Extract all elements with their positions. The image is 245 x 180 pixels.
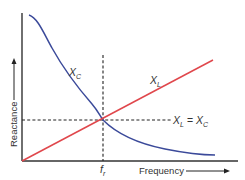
xl-inductive-reactance-line	[22, 60, 213, 161]
reactance-frequency-diagram: XC XL XL=XC fr Reactance Frequency	[0, 0, 245, 180]
equality-label: XL=XC	[172, 114, 209, 128]
x-axis-label: Frequency	[139, 165, 184, 176]
up-arrow-icon	[12, 58, 17, 64]
y-axis-label: Reactance	[8, 102, 19, 147]
xc-label: XC	[68, 66, 82, 80]
xl-label: XL	[149, 74, 161, 88]
right-arrow-icon	[224, 169, 230, 174]
resonant-frequency-label: fr	[100, 163, 106, 177]
xc-capacitive-reactance-curve	[29, 15, 215, 155]
